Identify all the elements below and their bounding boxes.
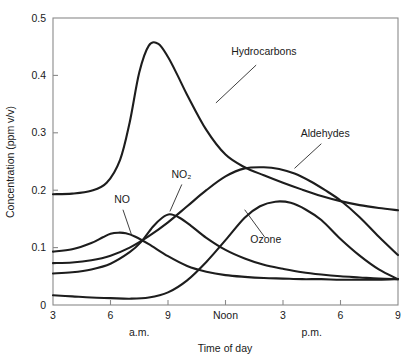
y-axis-tick-labels: 00.10.20.30.40.5 — [31, 12, 46, 311]
y-tick-label: 0.2 — [31, 184, 46, 196]
leader-line-no — [123, 210, 132, 235]
series-label-hydrocarbons: Hydrocarbons — [231, 45, 296, 57]
y-tick-label: 0.4 — [31, 69, 46, 81]
series-label-no2: NO₂ — [172, 168, 192, 180]
series-curves — [53, 42, 398, 299]
x-axis-ticks — [111, 300, 341, 305]
chart-canvas: 00.10.20.30.40.5 369Noon369 a.m.p.m. Hyd… — [0, 0, 419, 360]
y-tick-label: 0 — [40, 299, 46, 311]
x-tick-label: 6 — [108, 309, 114, 321]
y-axis-ticks — [53, 75, 58, 247]
x-tick-label: 3 — [280, 309, 286, 321]
x-tick-label: 9 — [165, 309, 171, 321]
x-axis-title: Time of day — [198, 342, 253, 354]
y-tick-label: 0.3 — [31, 126, 46, 138]
leader-line-no2 — [170, 184, 182, 211]
x-tick-label: 6 — [338, 309, 344, 321]
air-pollution-chart: 00.10.20.30.40.5 369Noon369 a.m.p.m. Hyd… — [0, 0, 419, 360]
period-label: p.m. — [302, 326, 322, 338]
period-labels: a.m.p.m. — [129, 326, 322, 338]
leader-line-aldehydes — [295, 144, 322, 169]
series-label-no: NO — [114, 193, 130, 205]
plot-frame-group — [53, 18, 398, 305]
y-axis-title: Concentration (ppm v/v) — [4, 106, 16, 218]
y-tick-label: 0.5 — [31, 12, 46, 24]
series-label-aldehydes: Aldehydes — [301, 127, 350, 139]
series-curve-no2 — [53, 214, 398, 279]
x-tick-label: Noon — [213, 309, 238, 321]
series-label-ozone: Ozone — [250, 233, 281, 245]
x-tick-label: 3 — [50, 309, 56, 321]
plot-frame — [53, 18, 398, 305]
x-axis-tick-labels: 369Noon369 — [50, 309, 401, 321]
leader-line-hydrocarbons — [216, 65, 256, 103]
y-tick-label: 0.1 — [31, 241, 46, 253]
x-tick-label: 9 — [395, 309, 401, 321]
period-label: a.m. — [129, 326, 149, 338]
